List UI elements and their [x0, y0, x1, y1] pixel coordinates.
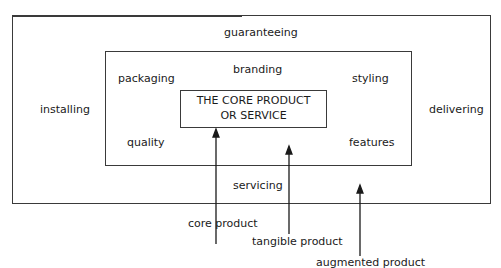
augmented-product-arrowhead-icon [357, 185, 363, 193]
label-augmented-product: augmented product [316, 257, 425, 268]
label-tangible-product: tangible product [252, 236, 343, 247]
tangible-product-arrowhead-icon [286, 146, 292, 154]
core-product-arrowhead-icon [213, 129, 219, 137]
label-core-product: core product [188, 218, 258, 229]
